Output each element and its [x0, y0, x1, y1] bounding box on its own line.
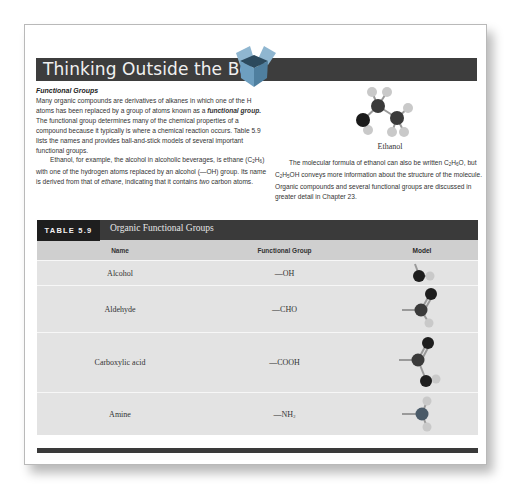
functional-groups-table: TABLE 5.9 Organic Functional Groups Name…: [37, 220, 478, 435]
carboxylic-acid-model-image: [366, 334, 478, 392]
table-title-bar: TABLE 5.9 Organic Functional Groups: [37, 220, 478, 240]
ethanol-text: The molecular formula of ethanol can als…: [275, 158, 487, 202]
open-box-icon: [228, 43, 280, 89]
bottom-rule: [37, 448, 478, 453]
row-name: Carboxylic acid: [37, 358, 203, 367]
molecule-caption: Ethanol: [350, 142, 430, 151]
row-name: Amine: [37, 410, 203, 419]
paragraph-2: Ethanol, for example, the alcohol in alc…: [36, 155, 268, 187]
row-name: Alcohol: [37, 269, 203, 278]
paragraph-3: The molecular formula of ethanol can als…: [275, 158, 487, 202]
alcohol-model-image: [366, 261, 478, 285]
ethanol-molecule-image: [350, 78, 425, 138]
column-header-group: Functional Group: [203, 247, 366, 254]
row-group: —CHO: [203, 305, 366, 314]
table-header-row: Name Functional Group Model: [37, 240, 478, 260]
table-caption: Organic Functional Groups: [110, 223, 214, 233]
table-row: Amine —NH2: [37, 392, 478, 435]
intro-text: Functional Groups Many organic compounds…: [36, 86, 268, 187]
table-row: Carboxylic acid —COOH: [37, 332, 478, 392]
column-header-model: Model: [366, 247, 478, 254]
paragraph-1: Many organic compounds are derivatives o…: [36, 96, 268, 155]
column-header-name: Name: [37, 247, 203, 254]
table-row: Aldehyde —CHO: [37, 285, 478, 332]
table-row: Alcohol —OH: [37, 260, 478, 285]
textbook-page: Thinking Outside the Box Functional Grou…: [24, 24, 487, 465]
section-heading: Functional Groups: [36, 86, 268, 96]
row-group: —OH: [203, 269, 366, 278]
term-functional-group: functional group.: [207, 107, 261, 114]
row-group: —NH2: [203, 410, 366, 419]
row-group: —COOH: [203, 358, 366, 367]
amine-model-image: [366, 393, 478, 435]
aldehyde-model-image: [366, 286, 478, 332]
table-number: TABLE 5.9: [37, 220, 100, 241]
row-name: Aldehyde: [37, 305, 203, 314]
